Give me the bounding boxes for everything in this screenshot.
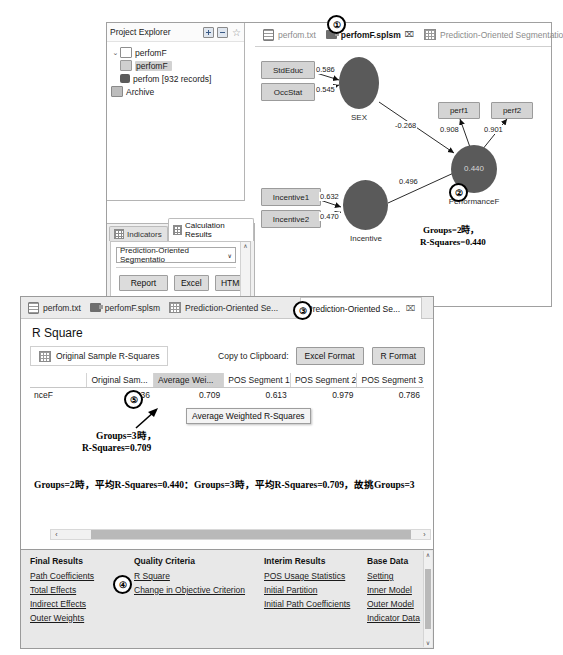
indicator-box-perf2[interactable]: perf2 (491, 102, 533, 119)
link-indirect-effects[interactable]: Indirect Effects (30, 597, 134, 611)
path-model-canvas[interactable]: StdEduc OccStat Incentive1 Incentive2 pe… (255, 47, 551, 306)
r-format-button[interactable]: R Format (372, 347, 425, 365)
column-header-pos-segment-2[interactable]: POS Segment 2 (291, 373, 358, 387)
indicator-box-perf1[interactable]: perf1 (438, 102, 480, 119)
indicator-box-occstat[interactable]: OccStat (261, 83, 315, 101)
favorite-star-icon[interactable]: ☆ (232, 28, 241, 37)
results-links-panel: Final Results Path Coefficients Total Ef… (20, 549, 434, 649)
table-row[interactable]: nceF 0.436 0.709 0.613 0.979 0.786 (30, 388, 424, 402)
cell-average-weighted: 0.709 (154, 388, 224, 402)
close-icon[interactable]: ⌧ (406, 304, 415, 313)
project-explorer-panel: Project Explorer ☆ ⌄ perfomF perfomF per… (107, 23, 245, 201)
loading-perf1: 0.908 (439, 125, 460, 134)
link-outer-model[interactable]: Outer Model (367, 597, 427, 611)
collapse-all-icon[interactable] (217, 27, 228, 38)
database-icon (120, 74, 130, 83)
editor-tab-prediction-oriented[interactable]: Prediction-Oriented Segmentatio (424, 29, 563, 40)
links-column-base-data: Base Data Setting Inner Model Outer Mode… (367, 556, 427, 625)
column-header-pos-segment-1[interactable]: POS Segment 1 (224, 373, 291, 387)
scroll-down-icon[interactable]: ∨ (424, 639, 432, 647)
column-header-original-sample[interactable]: Original Sam... (87, 373, 154, 387)
copy-to-clipboard-label: Copy to Clipboard: (218, 351, 288, 361)
links-column-header: Base Data (367, 556, 427, 566)
cell-pos-segment-3: 0.786 (357, 388, 424, 402)
r-square-table: Original Sam... Average Wei... POS Segme… (30, 373, 424, 402)
tab-original-sample-r-squares[interactable]: Original Sample R-Squares (30, 346, 168, 366)
link-setting[interactable]: Setting (367, 569, 427, 583)
link-initial-path-coefficients[interactable]: Initial Path Coefficients (264, 597, 367, 611)
scrollbar-thumb[interactable] (425, 569, 431, 629)
scrollbar-thumb[interactable] (91, 530, 411, 539)
bottom-tab-prediction-oriented[interactable]: Prediction-Oriented Se... (169, 302, 278, 313)
excel-format-button[interactable]: Excel Format (296, 347, 364, 365)
link-inner-model[interactable]: Inner Model (367, 583, 427, 597)
tab-indicators[interactable]: Indicators (109, 226, 168, 241)
annotation-arrow-icon (134, 408, 160, 430)
export-button-row: Report Excel HTML (119, 275, 250, 291)
links-column-quality-criteria: Quality Criteria R Square Change in Obje… (134, 556, 264, 625)
table-icon (424, 29, 436, 40)
link-pos-usage-statistics[interactable]: POS Usage Statistics (264, 569, 367, 583)
text-file-icon (28, 302, 39, 314)
tab-calculation-results[interactable]: Calculation Results (168, 218, 254, 241)
horizontal-scrollbar[interactable]: ‹ › (50, 529, 431, 540)
project-explorer-title: Project Explorer (110, 27, 200, 37)
scroll-right-icon[interactable]: › (419, 531, 430, 538)
column-header-average-weighted[interactable]: Average Wei... (154, 373, 224, 387)
loading-stdeduc: 0.586 (315, 65, 336, 74)
table-icon (39, 351, 51, 362)
loading-incentive2: 0.470 (319, 212, 340, 221)
grid-icon (173, 225, 182, 235)
link-change-in-objective-criterion[interactable]: Change in Objective Criterion (134, 583, 264, 597)
indicator-box-incentive2[interactable]: Incentive2 (261, 210, 321, 228)
indicator-box-incentive1[interactable]: Incentive1 (261, 188, 321, 206)
chevron-down-icon[interactable]: ⌄ (111, 49, 120, 57)
excel-button[interactable]: Excel (174, 275, 209, 291)
tab-label: Prediction-Oriented Se... (185, 303, 278, 313)
latent-node-sex-label: SEX (339, 113, 379, 122)
tree-item-archive[interactable]: Archive (111, 85, 244, 98)
report-button[interactable]: Report (119, 275, 168, 291)
model-icon (120, 60, 132, 71)
loading-incentive1: 0.632 (319, 192, 340, 201)
callout-5: ⑤ (124, 390, 143, 409)
bottom-tab-perfom-txt[interactable]: perfom.txt (28, 302, 81, 314)
link-r-square[interactable]: R Square (134, 569, 264, 583)
tab-label: perfomF.splsm (105, 303, 160, 313)
result-type-dropdown[interactable]: Prediction-Oriented Segmentatio ∨ (116, 247, 236, 263)
link-initial-partition[interactable]: Initial Partition (264, 583, 367, 597)
bottom-tab-active-prediction-oriented[interactable]: Prediction-Oriented Se... ⌧ (300, 297, 422, 319)
tab-label: Calculation Results (185, 221, 248, 239)
tree-item-perfomf-model[interactable]: perfomF (111, 59, 244, 72)
scroll-up-icon[interactable]: ∧ (241, 242, 250, 251)
annotation-groups2-line1: Groups=2時， (423, 223, 479, 236)
links-vertical-scrollbar[interactable]: ∧ ∨ (423, 551, 432, 647)
project-explorer-header: Project Explorer ☆ (107, 23, 244, 42)
bottom-tab-splsm[interactable]: perfomF.splsm (90, 303, 160, 313)
tree-item-perfomf-folder[interactable]: ⌄ perfomF (111, 46, 244, 59)
scroll-left-icon[interactable]: ‹ (51, 531, 62, 538)
link-indicator-data[interactable]: Indicator Data (367, 611, 427, 625)
calc-vertical-scrollbar[interactable]: ∧ (240, 242, 250, 302)
links-columns: Final Results Path Coefficients Total Ef… (21, 550, 433, 625)
callout-4: ④ (113, 575, 132, 594)
tree-item-perfom-data[interactable]: perfom [932 records] (111, 72, 244, 85)
links-column-interim-results: Interim Results POS Usage Statistics Ini… (264, 556, 367, 625)
tree-item-label: perfom [932 records] (133, 74, 211, 84)
indicator-box-stdeduc[interactable]: StdEduc (261, 61, 315, 79)
scroll-up-icon[interactable]: ∧ (424, 551, 432, 559)
latent-node-incentive[interactable] (343, 180, 388, 230)
path-sex-performancef: -0.268 (394, 121, 417, 130)
column-header-blank[interactable] (30, 373, 87, 387)
editor-tab-perfom-txt[interactable]: perfom.txt (263, 29, 316, 41)
table-icon (169, 302, 181, 313)
link-outer-weights[interactable]: Outer Weights (30, 611, 134, 625)
latent-node-sex[interactable] (339, 57, 379, 109)
loading-occstat: 0.545 (315, 85, 336, 94)
column-header-pos-segment-3[interactable]: POS Segment 3 (357, 373, 424, 387)
tab-label: perfom.txt (43, 303, 81, 313)
cell-original-sample: 0.436 (87, 388, 154, 402)
close-icon[interactable]: ⌧ (405, 30, 414, 39)
expand-all-icon[interactable] (203, 27, 214, 38)
chevron-down-icon[interactable]: ∨ (228, 252, 232, 259)
